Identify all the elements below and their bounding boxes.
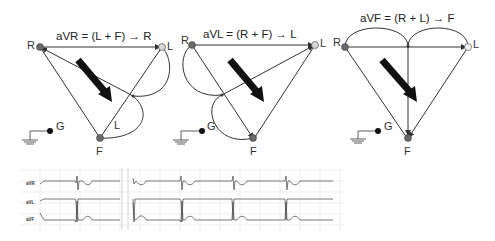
heart-vector-arrow-shaft [78,60,105,92]
ecg-trace-avf [40,201,333,222]
ground-icon [173,128,205,144]
node-label-r: R [27,39,35,51]
ground-icon [22,128,53,144]
panel-title-avr: aVR = (L + F) → R [56,30,151,42]
ecg-lead-label-avr: aVR [26,181,36,186]
ecg-lead-label-avl: aVL [26,200,35,205]
panel-avl: aVL = (R + F) → L R L F G [173,28,326,157]
electrode-r [189,42,196,49]
wire-from-r [345,28,408,47]
panel-avf: aVF = (R + L) → F R L F G [333,12,479,157]
node-label-l: L [167,40,173,52]
electrode-l [465,44,472,51]
electrode-r [342,44,349,51]
electrode-r [37,44,44,51]
wire-from-f [212,95,253,139]
wire-from-l [408,28,468,47]
electrode-f [97,135,104,142]
ecg-trace-avr [40,176,333,190]
ecg-lead-label-avf: aVF [26,217,35,222]
ecg-strip: aVR aVL aVF [20,168,345,230]
node-label-g: G [56,120,65,132]
node-label-l: L [320,37,326,49]
electrode-l [312,42,319,49]
node-label-f: F [96,145,103,157]
wire-label-l: L [114,119,120,131]
node-label-r: R [181,34,189,46]
node-label-f: F [250,145,257,157]
electrode-f [405,135,412,142]
electrode-l [159,44,166,51]
ground-icon [350,128,381,143]
central-terminal [221,94,224,97]
panel-title-avf: aVF = (R + L) → F [360,12,455,24]
node-label-f: F [404,145,411,157]
electrode-f [250,135,257,142]
panel-title-avl: aVL = (R + F) → L [203,28,297,40]
node-label-g: G [384,120,393,132]
node-label-g: G [207,120,216,132]
lead-line-r-f [345,47,407,138]
lead-line-r-f [40,47,100,138]
node-label-l: L [473,38,479,50]
einthoven-augmented-leads-diagram: aVR = (L + F) → R R L F L G aVL [0,0,495,241]
wire-from-l [133,47,170,96]
panel-avr: aVR = (L + F) → R R L F L G [22,30,173,157]
lead-line-r-f [192,45,253,138]
heart-vector-arrow-shaft [382,60,410,92]
central-terminal [132,95,135,98]
lead-line-l-f [409,47,468,137]
heart-vector-arrow-shaft [230,60,257,92]
wire-from-r [183,45,222,95]
node-label-r: R [333,36,341,48]
lead-line-l-f [255,45,315,137]
wire-from-f [100,96,143,138]
